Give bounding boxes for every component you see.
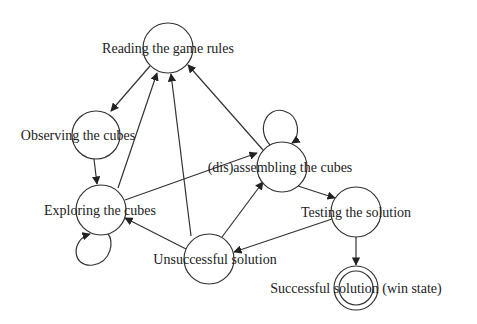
edge-disassembling-to-reading — [188, 65, 263, 150]
label-exploring-the-cubes: Exploring the cubes — [44, 203, 156, 218]
self-loop-disassembling — [263, 110, 297, 145]
label-observing-the-cubes: Observing the cubes — [21, 128, 135, 143]
label-testing-the-solution: Testing the solution — [301, 205, 411, 220]
edge-unsuccessful-to-exploring — [125, 218, 186, 249]
edge-disassembling-to-testing — [298, 186, 335, 198]
edge-unsuccessful-to-disassembling — [222, 182, 263, 237]
edge-reading-to-observing — [111, 66, 150, 111]
label-successful-solution: Successful solution (win state) — [270, 281, 442, 297]
state-diagram: Reading the game rules Observing the cub… — [0, 0, 477, 324]
label-reading-the-game-rules: Reading the game rules — [102, 41, 234, 56]
edge-observing-to-exploring — [94, 159, 97, 184]
labels: Reading the game rules Observing the cub… — [21, 41, 442, 297]
edge-testing-to-unsuccessful — [234, 219, 332, 252]
label-unsuccessful-solution: Unsuccessful solution — [153, 252, 276, 267]
self-loop-exploring — [76, 234, 111, 265]
edge-unsuccessful-to-reading — [171, 74, 191, 236]
label-disassembling-the-cubes: (dis)assembling the cubes — [208, 160, 353, 176]
